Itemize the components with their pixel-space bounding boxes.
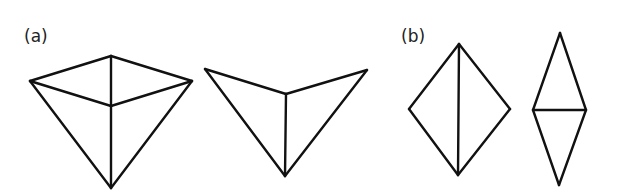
edge-top-left <box>533 33 560 110</box>
rhombus-horizontal-split-figure <box>533 33 586 185</box>
edge-left-bottom <box>409 109 458 175</box>
edge-center-right <box>111 81 192 106</box>
pyramid-top-view-figure <box>30 56 192 188</box>
edge-top-left <box>409 44 459 109</box>
edge-right-bottom <box>111 81 192 188</box>
edge-left-top <box>30 56 111 81</box>
folded-arrow-figure <box>205 69 367 176</box>
edge-left-center <box>205 69 286 94</box>
edge-center-right <box>286 70 367 94</box>
edge-left-bottom <box>30 81 111 188</box>
edge-top-right <box>111 56 192 81</box>
edge-right-top <box>459 44 510 109</box>
rhombus-vertical-split-figure <box>409 44 510 175</box>
edge-right-bottom <box>285 70 367 176</box>
edge-bottom-right <box>458 109 510 175</box>
diagram-canvas <box>0 0 624 195</box>
edge-top-bottom <box>458 44 459 175</box>
edge-left-bottom <box>205 69 285 176</box>
edge-bottom-right <box>559 110 586 185</box>
edge-right-top <box>560 33 586 110</box>
edge-center-bottom <box>285 94 286 176</box>
edge-left-center <box>30 81 111 106</box>
edge-left-bottom <box>533 110 559 185</box>
